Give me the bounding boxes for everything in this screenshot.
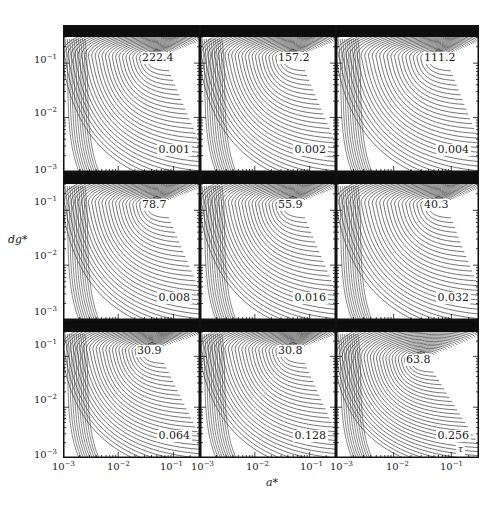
tick-base: 10	[34, 164, 47, 175]
contour-panel: 111.20.004	[336, 25, 479, 172]
tick-exponent: −3	[47, 448, 57, 456]
peak-value-label: 30.9	[136, 345, 163, 357]
tau-value-label: 0.128	[293, 430, 329, 442]
tick-base: 10	[160, 461, 173, 472]
tick-base: 10	[34, 250, 47, 261]
tick-exponent: −1	[47, 195, 57, 203]
tau-value-label: 0.064	[157, 430, 193, 442]
contour-panel: 63.80.256τ	[336, 320, 479, 458]
tick-exponent: −1	[313, 460, 323, 468]
tau-symbol-annotation: τ	[456, 443, 465, 455]
y-axis-title: dg*	[8, 233, 28, 246]
x-tick-label: 10−2	[246, 461, 269, 473]
tick-base: 10	[34, 306, 47, 317]
y-tick-label: 10−3	[34, 306, 57, 318]
tau-value-label: 0.001	[157, 144, 193, 156]
x-tick-label: 10−3	[52, 461, 75, 473]
contour-panel: 55.90.016	[200, 172, 336, 320]
contour-panel: 222.40.001	[63, 25, 200, 172]
y-tick-label: 10−2	[34, 394, 57, 406]
peak-value-label: 55.9	[277, 199, 304, 211]
tick-exponent: −1	[173, 460, 183, 468]
tau-value-label: 0.256	[436, 430, 472, 442]
tick-exponent: −3	[47, 163, 57, 171]
y-tick-label: 10−2	[34, 107, 57, 119]
y-tick-label: 10−1	[34, 196, 57, 208]
tick-base: 10	[107, 461, 120, 472]
tick-base: 10	[300, 461, 313, 472]
x-tick-label: 10−3	[191, 461, 214, 473]
tick-exponent: −3	[343, 460, 353, 468]
contour-panel: 157.20.002	[200, 25, 336, 172]
tick-exponent: −3	[47, 305, 57, 313]
x-tick-label: 10−2	[386, 461, 409, 473]
peak-value-label: 78.7	[141, 199, 168, 211]
y-tick-label: 10−3	[34, 449, 57, 461]
peak-value-label: 157.2	[277, 52, 311, 64]
tick-base: 10	[34, 339, 47, 350]
tick-base: 10	[34, 54, 47, 65]
tick-exponent: −2	[259, 460, 269, 468]
tick-base: 10	[386, 461, 399, 472]
tick-exponent: −3	[65, 460, 75, 468]
y-tick-label: 10−1	[34, 339, 57, 351]
tick-exponent: −1	[453, 460, 463, 468]
x-tick-label: 10−1	[440, 461, 463, 473]
y-tick-label: 10−2	[34, 250, 57, 262]
tau-value-label: 0.032	[436, 292, 472, 304]
tick-exponent: −1	[47, 338, 57, 346]
peak-value-label: 111.2	[423, 52, 457, 64]
tick-base: 10	[34, 449, 47, 460]
tick-base: 10	[191, 461, 204, 472]
contour-panel: 78.70.008	[63, 172, 200, 320]
peak-value-label: 30.8	[277, 345, 304, 357]
contour-panel: 40.30.032	[336, 172, 479, 320]
x-tick-label: 10−3	[330, 461, 353, 473]
tick-exponent: −2	[120, 460, 130, 468]
peak-value-label: 222.4	[141, 52, 175, 64]
tick-exponent: −1	[47, 53, 57, 61]
tau-value-label: 0.008	[157, 292, 193, 304]
tick-base: 10	[440, 461, 453, 472]
tick-base: 10	[246, 461, 259, 472]
tick-exponent: −2	[399, 460, 409, 468]
tick-base: 10	[34, 394, 47, 405]
tick-exponent: −2	[47, 393, 57, 401]
peak-value-label: 63.8	[405, 354, 432, 366]
tick-exponent: −2	[47, 249, 57, 257]
tau-value-label: 0.016	[293, 292, 329, 304]
y-tick-label: 10−1	[34, 54, 57, 66]
tick-exponent: −3	[204, 460, 214, 468]
tick-base: 10	[330, 461, 343, 472]
tick-base: 10	[52, 461, 65, 472]
tau-value-label: 0.004	[436, 144, 472, 156]
contour-panel: 30.90.064	[63, 320, 200, 458]
x-tick-label: 10−1	[300, 461, 323, 473]
x-tick-label: 10−2	[107, 461, 130, 473]
contour-panel: 30.80.128	[200, 320, 336, 458]
tau-value-label: 0.002	[293, 144, 329, 156]
y-tick-label: 10−3	[34, 164, 57, 176]
peak-value-label: 40.3	[423, 199, 450, 211]
x-tick-label: 10−1	[160, 461, 183, 473]
tick-base: 10	[34, 107, 47, 118]
contour-figure: 222.40.001157.20.002111.20.00478.70.0085…	[0, 0, 504, 511]
tick-exponent: −2	[47, 106, 57, 114]
x-axis-title: a*	[266, 476, 278, 489]
tick-base: 10	[34, 196, 47, 207]
